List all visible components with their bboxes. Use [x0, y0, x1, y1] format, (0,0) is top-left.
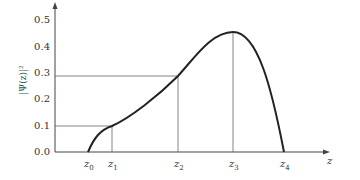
y-tick-0: 0.0 [34, 146, 50, 157]
density-curve [88, 32, 284, 152]
y-tick-5: 0.5 [34, 14, 50, 25]
x-tick-z4: z4 [279, 158, 290, 172]
x-axis-arrow-icon [323, 150, 330, 155]
y-axis-label: |Ψ(z)|² [18, 65, 29, 95]
y-tick-4: 0.4 [34, 41, 50, 52]
x-tick-z2: z2 [173, 158, 184, 172]
y-tick-2: 0.2 [34, 93, 50, 104]
x-tick-z1: z1 [107, 158, 118, 172]
y-tick-1: 0.1 [34, 120, 50, 131]
y-tick-3: 0.3 [34, 67, 50, 78]
probability-density-chart: 0.0 0.1 0.2 0.3 0.4 0.5 |Ψ(z)|² z0 z1 z2… [0, 0, 360, 180]
y-axis-arrow-icon [53, 2, 58, 9]
x-tick-z3: z3 [228, 158, 239, 172]
x-tick-z0: z0 [83, 158, 94, 172]
x-axis-label: z [326, 155, 333, 166]
